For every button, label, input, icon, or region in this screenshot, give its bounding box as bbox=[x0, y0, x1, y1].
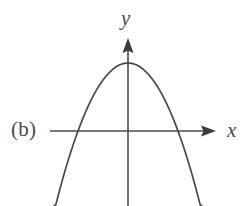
y-axis-label: y bbox=[121, 8, 130, 29]
x-axis-label: x bbox=[227, 120, 236, 141]
parabola-diagram bbox=[0, 0, 250, 206]
figure-container: (b) y x bbox=[0, 0, 250, 206]
part-label: (b) bbox=[11, 119, 36, 140]
